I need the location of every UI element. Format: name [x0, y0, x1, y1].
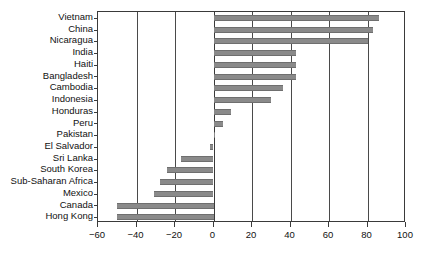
chart-container: −60−40−20020406080100 VietnamChinaNicara…	[0, 0, 436, 258]
bar-row	[98, 188, 404, 200]
bar	[214, 85, 283, 91]
y-axis-label-mexico: Mexico	[0, 187, 93, 199]
x-axis-tick	[174, 222, 175, 227]
x-axis-label-80: 80	[347, 229, 387, 241]
x-axis-label-20: 20	[231, 229, 271, 241]
y-axis-label-nicaragua: Nicaragua	[0, 34, 93, 46]
bar-row	[98, 141, 404, 153]
y-axis-tick	[94, 147, 98, 148]
y-axis-label-el-salvador: El Salvador	[0, 140, 93, 152]
x-axis-tick	[97, 222, 98, 227]
y-axis-label-sub-saharan-africa: Sub-Saharan Africa	[0, 175, 93, 187]
y-axis-label-china: China	[0, 23, 93, 35]
bar-row	[98, 200, 404, 212]
bar	[214, 27, 374, 33]
y-axis-tick	[94, 53, 98, 54]
y-axis-label-peru: Peru	[0, 117, 93, 129]
bar	[214, 74, 297, 80]
x-axis-tick	[367, 222, 368, 227]
y-axis-label-india: India	[0, 46, 93, 58]
x-axis-label-100: 100	[385, 229, 425, 241]
x-axis-label-40: 40	[270, 229, 310, 241]
bar	[214, 62, 297, 68]
y-axis-label-canada: Canada	[0, 199, 93, 211]
y-axis-label-honduras: Honduras	[0, 105, 93, 117]
x-axis-label-neg20: −20	[154, 229, 194, 241]
bar-row	[98, 47, 404, 59]
bar-row	[98, 176, 404, 188]
y-axis-tick	[94, 65, 98, 66]
x-axis-tick	[405, 222, 406, 227]
bar	[210, 144, 214, 150]
bar-row	[98, 118, 404, 130]
bar	[181, 156, 214, 162]
y-axis-tick	[94, 76, 98, 77]
y-axis-label-vietnam: Vietnam	[0, 11, 93, 23]
bar-row	[98, 94, 404, 106]
bar-row	[98, 153, 404, 165]
y-axis-tick	[94, 112, 98, 113]
y-axis-tick	[94, 123, 98, 124]
y-axis-tick	[94, 170, 98, 171]
bar	[167, 167, 213, 173]
y-axis-tick	[94, 205, 98, 206]
bar	[117, 203, 213, 209]
bar	[117, 214, 213, 220]
bar-row	[98, 24, 404, 36]
bar-row	[98, 12, 404, 24]
y-axis-label-hong-kong: Hong Kong	[0, 210, 93, 222]
bar	[154, 191, 214, 197]
y-axis-tick	[94, 159, 98, 160]
x-axis-label-neg40: −40	[116, 229, 156, 241]
y-axis-label-bangladesh: Bangladesh	[0, 70, 93, 82]
x-axis-label-60: 60	[308, 229, 348, 241]
y-axis-label-sri-lanka: Sri Lanka	[0, 152, 93, 164]
bar-row	[98, 71, 404, 83]
bar	[214, 50, 297, 56]
y-axis-tick	[94, 182, 98, 183]
bar-row	[98, 35, 404, 47]
y-axis-tick	[94, 194, 98, 195]
bar-row	[98, 106, 404, 118]
bar	[214, 15, 380, 21]
y-axis-tick	[94, 217, 98, 218]
bar-row	[98, 82, 404, 94]
y-axis-label-cambodia: Cambodia	[0, 81, 93, 93]
y-axis-tick	[94, 41, 98, 42]
x-axis-label-neg60: −60	[77, 229, 117, 241]
y-axis-tick	[94, 18, 98, 19]
y-axis-tick	[94, 135, 98, 136]
y-axis-label-south-korea: South Korea	[0, 163, 93, 175]
x-axis-tick	[290, 222, 291, 227]
y-axis-tick	[94, 30, 98, 31]
x-axis-tick	[213, 222, 214, 227]
bar	[214, 109, 231, 115]
x-axis-label-0: 0	[193, 229, 233, 241]
y-axis-tick	[94, 88, 98, 89]
bar-row	[98, 164, 404, 176]
x-axis-tick	[136, 222, 137, 227]
x-axis-tick	[328, 222, 329, 227]
plot-area	[97, 11, 405, 222]
bar	[214, 132, 216, 138]
bar-row	[98, 59, 404, 71]
y-axis-label-haiti: Haiti	[0, 58, 93, 70]
y-axis-tick	[94, 100, 98, 101]
bar	[214, 97, 272, 103]
y-axis-label-indonesia: Indonesia	[0, 93, 93, 105]
bar-row	[98, 129, 404, 141]
bar	[160, 179, 214, 185]
y-axis-label-pakistan: Pakistan	[0, 128, 93, 140]
bar	[214, 38, 368, 44]
bar	[214, 121, 224, 127]
x-axis-tick	[251, 222, 252, 227]
